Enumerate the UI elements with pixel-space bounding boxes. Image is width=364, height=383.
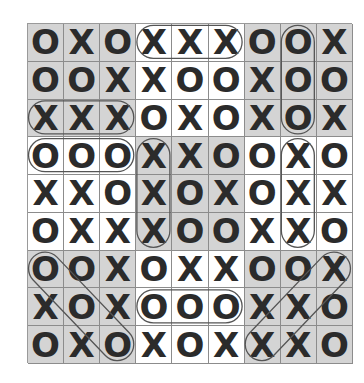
board-cell[interactable]: X: [281, 288, 317, 326]
board-cell[interactable]: O: [172, 175, 208, 213]
board-cell[interactable]: O: [317, 288, 353, 326]
board-cell[interactable]: X: [245, 288, 281, 326]
board-cell[interactable]: X: [136, 137, 172, 175]
board-cell[interactable]: O: [28, 213, 64, 251]
board-cell[interactable]: O: [209, 213, 245, 251]
x-mark-icon: X: [249, 328, 275, 362]
board-cell[interactable]: O: [317, 326, 353, 364]
board-cell[interactable]: O: [64, 62, 100, 100]
board-cell[interactable]: O: [28, 24, 64, 62]
board-cell[interactable]: X: [100, 288, 136, 326]
board-cell[interactable]: O: [136, 251, 172, 289]
board-cell[interactable]: O: [136, 288, 172, 326]
board-cell[interactable]: X: [28, 288, 64, 326]
x-mark-icon: X: [141, 25, 167, 59]
board-cell[interactable]: O: [209, 288, 245, 326]
board-cell[interactable]: O: [64, 288, 100, 326]
board-cell[interactable]: X: [245, 100, 281, 138]
board-cell[interactable]: X: [317, 251, 353, 289]
o-mark-icon: O: [139, 290, 168, 324]
o-mark-icon: O: [320, 328, 349, 362]
o-mark-icon: O: [320, 214, 349, 248]
board-cell[interactable]: X: [28, 175, 64, 213]
board-cell[interactable]: X: [245, 326, 281, 364]
board-cell[interactable]: O: [28, 251, 64, 289]
board-cell[interactable]: X: [64, 326, 100, 364]
board-cell[interactable]: X: [100, 100, 136, 138]
board-cell[interactable]: X: [172, 24, 208, 62]
board-cell[interactable]: O: [136, 100, 172, 138]
board-cell[interactable]: X: [209, 175, 245, 213]
board-cell[interactable]: O: [100, 326, 136, 364]
board-cell[interactable]: O: [281, 100, 317, 138]
board-cell[interactable]: X: [64, 24, 100, 62]
board-cell[interactable]: X: [317, 100, 353, 138]
board-cell[interactable]: X: [136, 24, 172, 62]
board-cell[interactable]: X: [245, 213, 281, 251]
board-cell[interactable]: X: [245, 62, 281, 100]
board-cell[interactable]: X: [317, 175, 353, 213]
o-mark-icon: O: [139, 101, 168, 135]
board-cell[interactable]: X: [209, 326, 245, 364]
board-cell[interactable]: O: [28, 62, 64, 100]
o-mark-icon: O: [31, 328, 60, 362]
board-cell[interactable]: O: [64, 251, 100, 289]
board-cell[interactable]: O: [172, 213, 208, 251]
board-cell[interactable]: X: [281, 326, 317, 364]
x-mark-icon: X: [213, 25, 239, 59]
x-mark-icon: X: [249, 101, 275, 135]
x-mark-icon: X: [285, 214, 311, 248]
board-cell[interactable]: O: [281, 251, 317, 289]
board-cell[interactable]: X: [317, 24, 353, 62]
board-cell[interactable]: O: [209, 62, 245, 100]
board-cell[interactable]: O: [245, 137, 281, 175]
o-mark-icon: O: [67, 63, 96, 97]
board-cell[interactable]: X: [209, 251, 245, 289]
board-cell[interactable]: O: [317, 213, 353, 251]
board-cell[interactable]: X: [100, 62, 136, 100]
board-cell[interactable]: X: [28, 100, 64, 138]
board-cell[interactable]: O: [172, 62, 208, 100]
x-mark-icon: X: [321, 25, 347, 59]
board-cell[interactable]: O: [209, 100, 245, 138]
board-cell[interactable]: O: [100, 175, 136, 213]
o-mark-icon: O: [248, 25, 277, 59]
board-cell[interactable]: X: [64, 213, 100, 251]
board-cell[interactable]: X: [100, 213, 136, 251]
board-cell[interactable]: X: [281, 137, 317, 175]
board-cell[interactable]: X: [136, 326, 172, 364]
board-cell[interactable]: X: [209, 24, 245, 62]
board-cell[interactable]: X: [172, 137, 208, 175]
board-cell[interactable]: O: [28, 137, 64, 175]
x-mark-icon: X: [321, 176, 347, 210]
board-cell[interactable]: O: [245, 175, 281, 213]
board-cell[interactable]: X: [136, 213, 172, 251]
board-cell[interactable]: O: [100, 24, 136, 62]
o-mark-icon: O: [31, 139, 60, 173]
board-cell[interactable]: X: [281, 175, 317, 213]
board-cell[interactable]: O: [317, 62, 353, 100]
board-cell[interactable]: X: [172, 251, 208, 289]
o-mark-icon: O: [212, 101, 241, 135]
board-cell[interactable]: X: [172, 100, 208, 138]
x-mark-icon: X: [321, 252, 347, 286]
board-cell[interactable]: X: [136, 175, 172, 213]
x-mark-icon: X: [105, 101, 131, 135]
board-cell[interactable]: O: [172, 288, 208, 326]
board-cell[interactable]: O: [245, 24, 281, 62]
board-cell[interactable]: O: [172, 326, 208, 364]
board-cell[interactable]: O: [100, 137, 136, 175]
board-cell[interactable]: O: [64, 137, 100, 175]
board-cell[interactable]: O: [281, 62, 317, 100]
board-cell[interactable]: O: [317, 137, 353, 175]
x-mark-icon: X: [32, 101, 58, 135]
board-cell[interactable]: X: [281, 213, 317, 251]
board-cell[interactable]: X: [64, 175, 100, 213]
board-cell[interactable]: O: [245, 251, 281, 289]
board-cell[interactable]: O: [28, 326, 64, 364]
board-cell[interactable]: X: [136, 62, 172, 100]
board-cell[interactable]: X: [100, 251, 136, 289]
board-cell[interactable]: O: [209, 137, 245, 175]
board-cell[interactable]: X: [64, 100, 100, 138]
board-cell[interactable]: O: [281, 24, 317, 62]
